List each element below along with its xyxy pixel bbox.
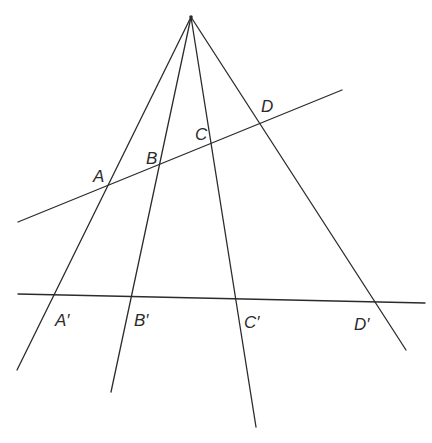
- diagram-canvas: A B C D A′ B′ C′ D′: [0, 0, 432, 443]
- label-d: D: [261, 97, 273, 116]
- label-a: A: [92, 167, 104, 186]
- upper-transversal-line: [18, 90, 342, 222]
- label-b-prime: B′: [134, 311, 149, 330]
- perspectivity-diagram: A B C D A′ B′ C′ D′: [0, 0, 432, 443]
- label-b: B: [146, 149, 157, 168]
- ray-b: [111, 17, 191, 392]
- lower-transversal-line: [18, 294, 425, 303]
- ray-c: [191, 17, 256, 427]
- apex-point: [189, 15, 193, 19]
- label-a-prime: A′: [54, 311, 70, 330]
- ray-a: [17, 17, 191, 370]
- label-c-prime: C′: [244, 313, 260, 332]
- label-d-prime: D′: [354, 315, 370, 334]
- label-c: C: [195, 125, 208, 144]
